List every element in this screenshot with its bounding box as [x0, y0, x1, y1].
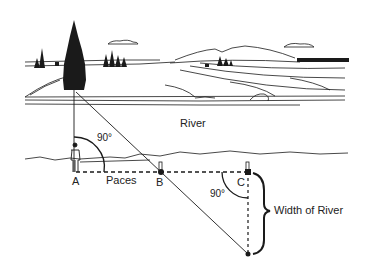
point-c-marker: [245, 169, 251, 175]
angle-c-label: 90°: [210, 188, 225, 199]
stakes: [159, 162, 249, 171]
clouds: [108, 40, 314, 47]
width-of-river-label: Width of River: [274, 204, 343, 216]
paces-label: Paces: [106, 174, 137, 186]
tall-tree: [63, 20, 86, 90]
point-a-label: A: [72, 175, 80, 187]
river-width-diagram: River 90° A Paces B C 90° Width of River: [0, 0, 369, 280]
person-figure: [71, 143, 80, 172]
angle-a-label: 90°: [97, 132, 112, 143]
point-d-marker: [246, 252, 251, 257]
point-b-marker: [158, 169, 164, 175]
geometry: [74, 90, 270, 254]
width-brace: [253, 173, 270, 254]
point-b-label: B: [156, 176, 163, 188]
river-label: River: [180, 117, 206, 129]
point-c-label: C: [237, 176, 245, 188]
